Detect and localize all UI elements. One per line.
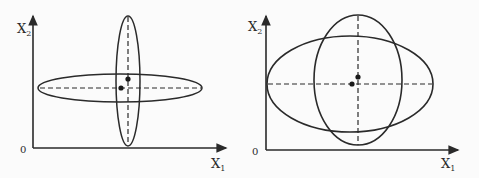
left-x-label: X1 <box>211 156 225 173</box>
figure-canvas: 0 X2 X1 0 X2 X1 <box>0 0 479 178</box>
right-y-label: X2 <box>248 19 262 36</box>
ellipse-diagram: 0 X2 X1 0 X2 X1 <box>0 0 479 178</box>
right-origin-label: 0 <box>252 146 258 157</box>
right-centroid-2 <box>355 74 360 79</box>
left-origin-label: 0 <box>20 144 26 155</box>
right-x-label: X1 <box>441 156 455 173</box>
right-centroid-1 <box>349 81 354 86</box>
right-panel: 0 X2 X1 <box>248 15 458 173</box>
left-centroid-1 <box>118 85 123 90</box>
left-centroid-2 <box>125 76 130 81</box>
left-panel: 0 X2 X1 <box>17 16 226 173</box>
left-y-label: X2 <box>17 21 31 38</box>
